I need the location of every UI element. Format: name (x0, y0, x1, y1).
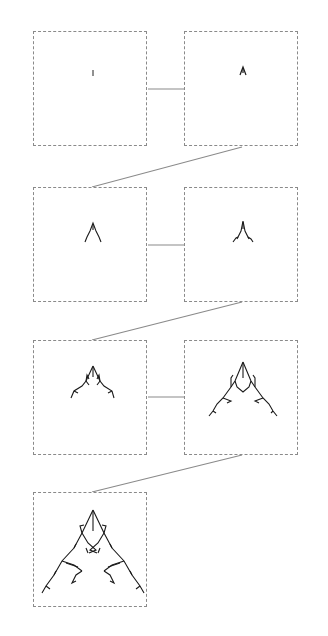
connector-4-5 (92, 302, 242, 340)
stage-frame-6 (184, 340, 298, 455)
fractal-stage-4-drawing (185, 188, 299, 303)
fractal-stage-6-drawing (185, 341, 299, 456)
stage-frame-1 (33, 31, 147, 146)
fractal-stage-3-drawing (34, 188, 148, 303)
stage-frame-2 (184, 31, 298, 146)
stage-frame-3 (33, 187, 147, 302)
connector-6-7 (92, 455, 242, 492)
stage-frame-7 (33, 492, 147, 607)
fractal-stage-1-drawing (34, 32, 148, 147)
fractal-stage-2-drawing (185, 32, 299, 147)
stage-frame-5 (33, 340, 147, 455)
connector-2-3 (92, 147, 242, 187)
fractal-stage-5-drawing (34, 341, 148, 456)
stage-frame-4 (184, 187, 298, 302)
fractal-stage-7-drawing (34, 493, 148, 608)
